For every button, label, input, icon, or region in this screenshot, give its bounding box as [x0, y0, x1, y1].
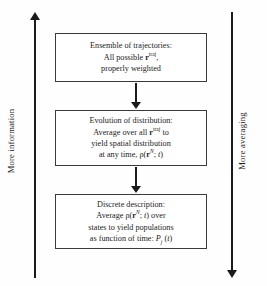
box-text-line: properly weighted — [101, 63, 161, 74]
down-arrow-icon — [131, 102, 141, 109]
arrow-box2-to-box3 — [130, 167, 142, 193]
box-text-run: ) — [160, 150, 163, 159]
box-text-run: ) — [169, 234, 172, 243]
axis-more-information — [28, 12, 42, 278]
box-text-line: states to yield populations — [88, 222, 173, 233]
box-text-run: at any time, ρ( — [99, 150, 146, 159]
box-text-run: Average over all — [93, 128, 149, 137]
box-text-line: Discrete description: — [97, 199, 165, 210]
box-text-run: Ensemble of trajectories: — [90, 41, 172, 50]
arrow-box1-to-box2 — [130, 83, 142, 109]
connector-stem — [135, 167, 137, 186]
box-text-line: Ensemble of trajectories: — [90, 40, 172, 51]
box-text-run: properly weighted — [101, 64, 161, 73]
box-text-run: Average ρ( — [96, 211, 132, 220]
connector-stem — [135, 83, 137, 102]
box-text-run: Evolution of distribution: — [89, 116, 172, 125]
box-text-run: as function of time: — [90, 234, 156, 243]
flow-box-ensemble-of-trajectories: Ensemble of trajectories:All possible rt… — [55, 33, 207, 82]
axis-right-label: More averaging — [237, 103, 247, 179]
box-text-run: ) over — [146, 211, 165, 220]
down-arrow-icon — [131, 186, 141, 193]
box-text-run: states to yield populations — [88, 223, 173, 232]
axis-left-label: More information — [6, 103, 16, 179]
box-text-run: yield spatial distribution — [91, 139, 171, 148]
box-text-run: , — [156, 53, 158, 62]
box-text-run: Discrete description: — [97, 200, 165, 209]
box-text-line: All possible rtraj, — [104, 52, 159, 63]
box-text-line: as function of time: Pj (t) — [90, 233, 172, 244]
box-text-line: yield spatial distribution — [91, 138, 171, 149]
down-arrow-icon — [227, 270, 237, 278]
flow-box-discrete-description: Discrete description:Average ρ(rN; t) ov… — [55, 194, 207, 249]
diagram-canvas: More information More averaging Ensemble… — [0, 0, 267, 286]
box-text-run: to — [160, 128, 168, 137]
box-text-line: at any time, ρ(rN; t) — [99, 149, 163, 160]
axis-left-shaft — [34, 19, 36, 278]
box-text-run: All possible — [104, 53, 145, 62]
box-text-line: Average ρ(rN; t) over — [96, 210, 165, 221]
flow-box-evolution-of-distribution: Evolution of distribution:Average over a… — [55, 110, 207, 166]
box-text-line: Average over all rtraj to — [93, 127, 169, 138]
axis-right-shaft — [231, 12, 233, 271]
